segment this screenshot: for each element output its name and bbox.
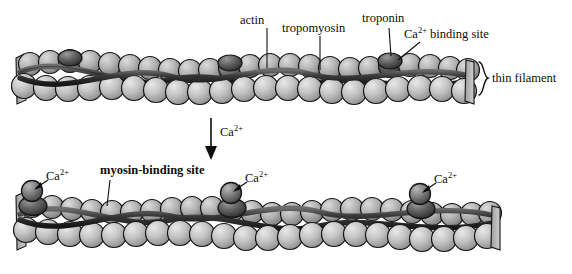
label-ca-binding-site-ca: Ca [404,27,418,41]
label-calcium-middle-charge: 2+ [259,169,268,179]
label-ca-binding-site-rest: binding site [427,27,489,41]
thin-filament-bracket [479,62,488,95]
label-arrow-calcium: Ca2+ [220,126,243,139]
troponin-calcium-complex-left [19,180,48,216]
transition-arrow [205,118,217,160]
label-ca-binding-site-charge: 2+ [418,25,427,35]
label-calcium-left-charge: 2+ [60,167,69,177]
label-calcium-middle: Ca2+ [245,172,268,185]
label-calcium-left-ca: Ca [46,169,60,183]
label-actin: actin [240,14,264,27]
label-ca-binding-site: Ca2+ binding site [404,28,489,41]
troponin-calcium-complex-middle [218,182,247,218]
label-arrow-calcium-charge: 2+ [234,123,243,133]
label-thin-filament: thin filament [492,72,556,85]
label-myosin-binding-site: myosin-binding site [100,164,205,177]
leader-troponin [389,28,391,56]
label-calcium-middle-ca: Ca [245,171,259,185]
troponin-calcium-complex-right [407,183,436,219]
label-calcium-right: Ca2+ [434,173,457,186]
label-calcium-right-charge: 2+ [448,170,457,180]
diagram-graphics [0,0,572,274]
figure-canvas: actin tropomyosin troponin Ca2+ binding … [0,0,572,274]
label-tropomyosin: tropomyosin [282,22,345,35]
label-arrow-calcium-ca: Ca [220,125,234,139]
actin-front-row [12,74,477,105]
label-calcium-left: Ca2+ [46,170,69,183]
label-calcium-right-ca: Ca [434,172,448,186]
label-troponin: troponin [362,12,404,25]
bottom-filament-group [14,180,502,252]
